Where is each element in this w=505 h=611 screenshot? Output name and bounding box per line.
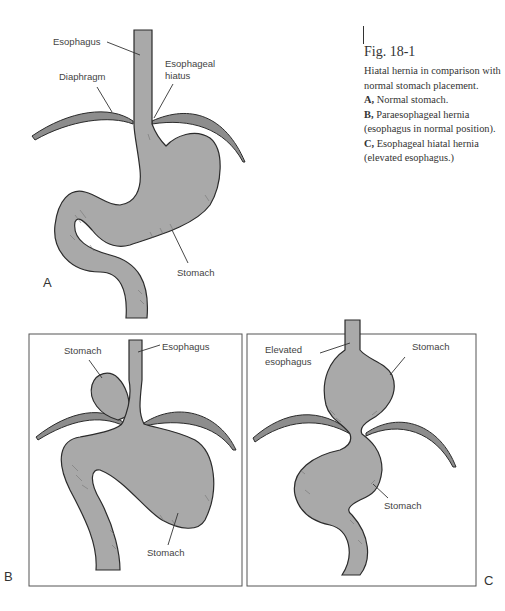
leader-hiatus-a	[154, 84, 173, 118]
label-stomach-a: Stomach	[177, 267, 215, 278]
panel-c: Elevated esophagus Stomach Stomach C	[247, 320, 493, 588]
stomach-b	[61, 340, 213, 570]
label-elevated-c-2: esophagus	[265, 356, 312, 367]
label-stomach-b-lower: Stomach	[147, 547, 185, 558]
caption-rule	[363, 26, 364, 44]
label-stomach-c-lower: Stomach	[384, 500, 422, 511]
caption-text-a: Normal stomach.	[377, 94, 449, 105]
caption-intro: Hiatal hernia in comparison with normal …	[364, 65, 501, 91]
label-hiatus-a-1: Esophageal	[165, 58, 215, 69]
leader-diaphragm-a	[97, 87, 112, 112]
label-elevated-c-1: Elevated	[265, 344, 302, 355]
diaphragm-a	[32, 112, 133, 140]
panel-b: Stomach Esophagus Stomach B	[4, 334, 242, 586]
caption-letter-c: C,	[364, 138, 374, 149]
label-esophagus-b: Esophagus	[162, 341, 210, 352]
caption-title: Fig. 18-1	[364, 44, 503, 60]
leader-stomach-a	[172, 230, 188, 263]
panel-letter-b: B	[4, 569, 13, 584]
label-esophagus-a: Esophagus	[53, 36, 101, 47]
caption-text-b: Paraesophageal hernia (esophagus in norm…	[364, 109, 496, 135]
leader-stomach-c-upper	[390, 357, 405, 375]
panel-a: Esophagus Diaphragm Esophageal hiatus St…	[32, 30, 245, 318]
leader-stomach-c-lower	[373, 484, 388, 498]
leader-stomach-b-upper	[89, 360, 102, 378]
label-diaphragm-a: Diaphragm	[59, 71, 106, 82]
caption-body: Hiatal hernia in comparison with normal …	[364, 64, 503, 166]
panel-letter-a: A	[43, 275, 52, 290]
panel-letter-c: C	[484, 573, 493, 588]
caption-letter-b: B,	[364, 109, 374, 120]
figure-caption: Fig. 18-1 Hiatal hernia in comparison wi…	[363, 26, 503, 166]
label-stomach-b-upper: Stomach	[64, 345, 102, 356]
caption-letter-a: A,	[364, 94, 374, 105]
label-hiatus-a-2: hiatus	[165, 70, 191, 81]
label-stomach-c-upper: Stomach	[412, 341, 450, 352]
caption-text-c: Esophageal hiatal hernia (elevated esoph…	[364, 138, 479, 164]
